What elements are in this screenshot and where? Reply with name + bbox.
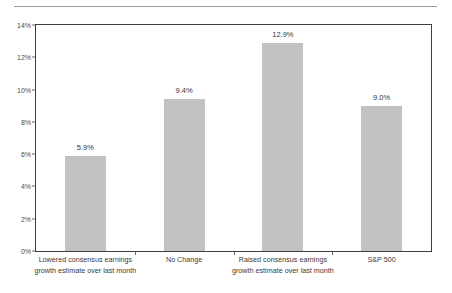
- category-label: S&P 500: [368, 255, 396, 266]
- bar-value-label: 9.4%: [176, 87, 193, 95]
- y-axis-tick-label: 8%: [21, 118, 31, 125]
- bar-value-label: 5.9%: [77, 144, 94, 152]
- y-axis-tick-mark: [32, 57, 35, 58]
- y-axis-ticks: [31, 24, 35, 252]
- bar: [361, 106, 402, 251]
- category-label-line: Lowered consensus earnings: [34, 255, 136, 266]
- category-label: No Change: [166, 255, 202, 266]
- y-axis-tick-mark: [32, 186, 35, 187]
- y-axis-labels: 0%2%4%6%8%10%12%14%: [0, 24, 31, 252]
- bar-value-label: 12.9%: [272, 31, 293, 39]
- top-divider-rule: [14, 6, 437, 7]
- bar: [164, 99, 205, 251]
- category-label: Lowered consensus earningsgrowth estimat…: [34, 255, 136, 276]
- y-axis-tick-label: 0%: [21, 248, 31, 255]
- bar: [65, 156, 106, 251]
- y-axis-tick-label: 2%: [21, 215, 31, 222]
- y-axis-tick-mark: [32, 89, 35, 90]
- y-axis-tick-label: 6%: [21, 151, 31, 158]
- category-label: Raised consensus earningsgrowth estimate…: [232, 255, 334, 276]
- x-axis-category-labels: Lowered consensus earningsgrowth estimat…: [35, 255, 432, 291]
- y-axis-tick-label: 14%: [17, 22, 31, 29]
- y-axis-tick-mark: [32, 25, 35, 26]
- plot-inner-area: 5.9%9.4%12.9%9.0%: [36, 25, 431, 251]
- category-label-line: S&P 500: [368, 255, 396, 266]
- y-axis-tick-mark: [32, 121, 35, 122]
- chart-figure: 0%2%4%6%8%10%12%14% 5.9%9.4%12.9%9.0% Lo…: [0, 0, 452, 293]
- category-label-line: growth estimate over last month: [232, 266, 334, 277]
- y-axis-tick-label: 4%: [21, 183, 31, 190]
- category-label-line: Raised consensus earnings: [232, 255, 334, 266]
- category-label-line: growth estimate over last month: [34, 266, 136, 277]
- bar-value-label: 9.0%: [373, 94, 390, 102]
- category-label-line: No Change: [166, 255, 202, 266]
- y-axis-tick-mark: [32, 218, 35, 219]
- y-axis-tick-mark: [32, 154, 35, 155]
- y-axis-tick-label: 10%: [17, 86, 31, 93]
- y-axis-tick-label: 12%: [17, 54, 31, 61]
- bar: [262, 43, 303, 251]
